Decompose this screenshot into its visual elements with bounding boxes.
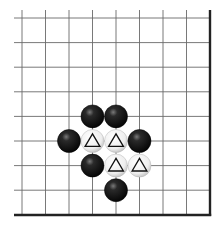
black-stone: [128, 130, 151, 153]
white-stone: [105, 130, 128, 153]
white-stone: [105, 154, 128, 177]
black-stone: [81, 154, 104, 177]
white-stone: [81, 130, 104, 153]
black-stone: [105, 179, 128, 202]
go-board: [0, 0, 219, 232]
white-stone: [128, 154, 151, 177]
stones-layer: [58, 105, 152, 202]
black-stone: [81, 105, 104, 128]
black-stone: [58, 130, 81, 153]
black-stone: [105, 105, 128, 128]
